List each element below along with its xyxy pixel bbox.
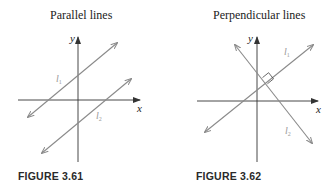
- y-axis-label: y: [247, 32, 253, 44]
- l1-label: l1: [284, 46, 290, 58]
- l2-label: l2: [285, 125, 291, 137]
- x-axis-label: x: [315, 103, 321, 115]
- line-l1: [205, 45, 313, 132]
- l1-label: l1: [56, 73, 62, 85]
- x-axis-label: x: [136, 102, 142, 114]
- line-l2: [42, 79, 131, 153]
- figure-3-62-diagram: y x l1 l2: [197, 32, 321, 162]
- l2-label: l2: [96, 110, 102, 122]
- line-l2: [235, 45, 312, 143]
- figure-3-61-diagram: y x l1 l2: [18, 32, 142, 162]
- y-axis-label: y: [69, 32, 75, 44]
- figure-2-caption: FIGURE 3.62: [196, 170, 261, 182]
- figure-1-caption: FIGURE 3.61: [18, 170, 83, 182]
- line-l1: [28, 43, 117, 117]
- diagrams: y x l1 l2 y x l1 l2: [0, 0, 333, 190]
